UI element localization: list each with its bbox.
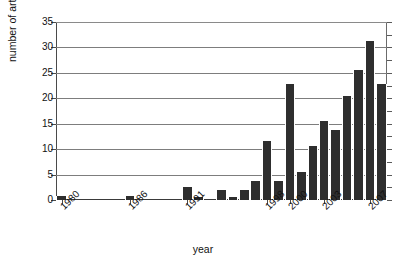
right-tick-15 (387, 124, 392, 125)
right-tick-25 (387, 73, 392, 74)
bar-1996 (239, 190, 250, 200)
right-tick-5 (387, 175, 392, 176)
y-tick-label-0: 0 (31, 195, 53, 205)
bar-1997 (250, 181, 261, 200)
bar-1998 (262, 141, 273, 201)
x-axis-title: year (0, 243, 406, 255)
right-tick-17.5 (387, 111, 392, 112)
right-tick-30 (387, 47, 392, 48)
right-tick-12.5 (387, 136, 392, 137)
y-axis-title-wrapper: number of articles (2, 0, 20, 200)
y-tick-label-15: 15 (31, 119, 53, 129)
bar-chart-figure: number of articles 05101520253035 198019… (0, 0, 406, 265)
bar-series (56, 22, 387, 200)
bar-1995 (228, 197, 239, 200)
right-tick-35 (387, 22, 392, 23)
y-tick-label-30: 30 (31, 42, 53, 52)
y-tick-label-20: 20 (31, 93, 53, 103)
y-tick-label-35: 35 (31, 17, 53, 27)
bar-1994 (216, 190, 227, 200)
right-tick-32.5 (387, 35, 392, 36)
bar-2003 (319, 121, 330, 200)
bar-2007 (365, 41, 376, 200)
y-tick-label-25: 25 (31, 68, 53, 78)
right-tick-10 (387, 149, 392, 150)
right-tick-22.5 (387, 86, 392, 87)
right-tick-20 (387, 98, 392, 99)
right-tick-7.5 (387, 162, 392, 163)
right-tick-27.5 (387, 60, 392, 61)
bar-2005 (342, 96, 353, 200)
bar-2000 (285, 84, 296, 200)
bar-2008 (376, 84, 387, 200)
right-tick-0 (387, 200, 392, 201)
right-tick-2.5 (387, 187, 392, 188)
y-tick-label-10: 10 (31, 144, 53, 154)
y-tick-label-5: 5 (31, 170, 53, 180)
bar-2006 (353, 70, 364, 200)
plot-area (56, 22, 387, 200)
bar-2002 (308, 146, 319, 200)
y-axis-title: number of articles (6, 0, 18, 62)
